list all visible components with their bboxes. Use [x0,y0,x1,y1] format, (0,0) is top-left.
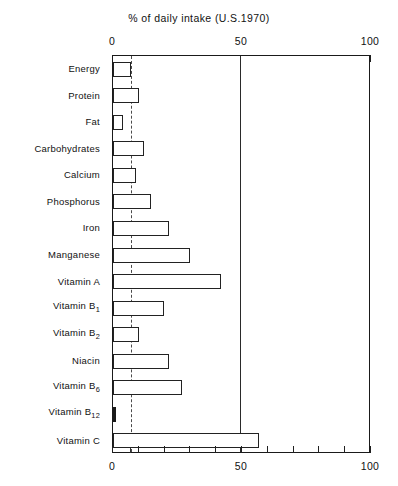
bar-calcium [113,168,136,183]
category-label-niacin: Niacin [72,355,100,366]
bar-row [113,221,369,236]
bar-row [113,141,369,156]
x-tick-100 [370,55,371,62]
bar-row [113,115,369,130]
x-tick-0 [112,446,113,453]
bar-row [113,380,369,395]
x-axis-label-50: 50 [235,35,247,47]
category-label-energy: Energy [68,63,100,74]
bar-row [113,62,369,77]
bar-fat [113,115,123,130]
x-tick-40 [215,446,216,453]
bar-vitamin-c [113,433,259,448]
x-tick-50 [241,446,242,453]
category-label-vitamin-b6: Vitamin B6 [53,380,100,394]
x-axis-bottom: 050100 [112,453,370,454]
x-tick-10 [138,446,139,453]
category-label-vitamin-c: Vitamin C [57,434,100,445]
category-label-manganese: Manganese [48,249,100,260]
bar-niacin [113,354,169,369]
bar-protein [113,88,139,103]
bar-vitamin-b6 [113,380,182,395]
bar-vitamin-b2 [113,327,139,342]
chart-root: % of daily intake (U.S.1970) 050100 Ener… [0,0,398,486]
category-label-vitamin-b2: Vitamin B2 [53,327,100,341]
chart-title: % of daily intake (U.S.1970) [0,12,398,24]
category-label-vitamin-a: Vitamin A [58,275,100,286]
plot-area [112,55,370,453]
category-axis-labels: EnergyProteinFatCarbohydratesCalciumPhos… [0,55,108,453]
x-axis-label-0: 0 [109,35,115,47]
bar-row [113,274,369,289]
x-tick-reference-7 [130,448,131,453]
bar-carbohydrates [113,141,144,156]
bar-vitamin-b12 [113,407,116,422]
bar-row [113,354,369,369]
bar-vitamin-b1 [113,301,164,316]
bar-row [113,88,369,103]
bar-row [113,301,369,316]
category-label-vitamin-b12: Vitamin B12 [49,406,100,420]
category-label-vitamin-b1: Vitamin B1 [53,300,100,314]
category-label-carbohydrates: Carbohydrates [34,142,100,153]
x-tick-90 [344,446,345,453]
bar-energy [113,62,131,77]
bar-phosphorus [113,194,151,209]
bar-series [113,56,369,452]
x-axis-label-100: 100 [361,460,379,472]
bar-row [113,194,369,209]
bar-iron [113,221,169,236]
bar-manganese [113,248,190,263]
bar-row [113,407,369,422]
x-tick-20 [164,446,165,453]
category-label-protein: Protein [68,89,100,100]
x-tick-100 [370,446,371,453]
category-label-fat: Fat [86,116,100,127]
category-label-iron: Iron [83,222,100,233]
bar-vitamin-a [113,274,221,289]
bar-row [113,248,369,263]
x-tick-60 [267,446,268,453]
x-axis-label-100: 100 [361,35,379,47]
x-tick-30 [189,446,190,453]
x-tick-70 [293,446,294,453]
x-axis-label-0: 0 [109,460,115,472]
category-label-calcium: Calcium [64,169,100,180]
bar-row [113,327,369,342]
x-axis-label-50: 50 [235,460,247,472]
category-label-phosphorus: Phosphorus [47,195,100,206]
x-tick-80 [318,446,319,453]
bar-row [113,168,369,183]
